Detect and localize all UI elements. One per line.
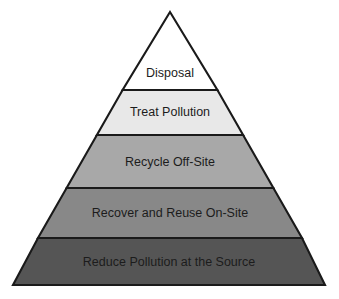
pyramid-tier-fourth-label: Recover and Reuse On-Site <box>92 206 248 220</box>
pyramid-tier-bottom-label: Reduce Pollution at the Source <box>83 255 255 269</box>
pyramid-tier-middle-label: Recycle Off-Site <box>125 155 215 169</box>
pyramid-tier-second-label: Treat Pollution <box>130 105 210 119</box>
pollution-prevention-hierarchy-diagram: Reduce Pollution at the Source Recover a… <box>0 0 339 299</box>
pyramid-tier-top-label: Disposal <box>146 66 194 80</box>
pyramid-graphic: Reduce Pollution at the Source Recover a… <box>0 0 339 299</box>
